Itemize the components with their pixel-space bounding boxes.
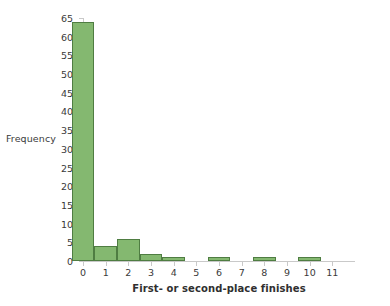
histogram-bar [117, 239, 140, 261]
histogram-bar [140, 254, 163, 261]
y-axis-title: Frequency [6, 133, 64, 144]
x-tick-label: 8 [261, 267, 267, 278]
x-tick [151, 261, 152, 266]
x-tick-label: 3 [148, 267, 154, 278]
x-tick-label: 2 [125, 267, 131, 278]
x-tick [128, 261, 129, 266]
x-tick [106, 261, 107, 266]
y-tick: 65 [79, 18, 84, 19]
histogram-bar [72, 22, 95, 261]
histogram-bar [94, 246, 117, 261]
x-tick-label: 9 [284, 267, 290, 278]
histogram-figure: Frequency 05101520253035404550556065 012… [0, 0, 390, 306]
x-tick [264, 261, 265, 266]
x-axis-title: First- or second-place finishes [83, 283, 355, 294]
x-tick [310, 261, 311, 266]
histogram-bar [298, 257, 321, 261]
x-tick-label: 5 [193, 267, 199, 278]
x-tick-label: 11 [326, 267, 338, 278]
x-tick [196, 261, 197, 266]
x-tick-label: 4 [171, 267, 177, 278]
plot-area: 05101520253035404550556065 0123456789101… [83, 18, 355, 261]
x-tick-label: 7 [239, 267, 245, 278]
x-tick [242, 261, 243, 266]
x-tick-label: 1 [103, 267, 109, 278]
x-tick-label: 0 [80, 267, 86, 278]
histogram-bar [162, 257, 185, 261]
x-tick [83, 261, 84, 266]
x-tick [287, 261, 288, 266]
x-tick-label: 10 [304, 267, 316, 278]
x-tick [332, 261, 333, 266]
histogram-bar [208, 257, 231, 261]
x-tick-label: 6 [216, 267, 222, 278]
histogram-bar [253, 257, 276, 261]
x-tick [174, 261, 175, 266]
x-tick [219, 261, 220, 266]
